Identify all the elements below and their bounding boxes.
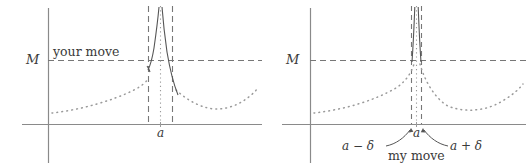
your-move-panel: M your move a: [0, 0, 265, 167]
label-a-minus-delta: a − δ: [342, 140, 374, 152]
right-plot-svg: [264, 0, 529, 167]
threshold-label-m: M: [286, 53, 299, 66]
curve-dotted-left-tail: [314, 64, 414, 113]
curve-solid-right-branch: [418, 7, 421, 62]
curve-solid-left-branch: [412, 7, 415, 62]
x-axis-label-a: a: [157, 127, 164, 139]
curve-dotted-right-tail: [176, 88, 258, 109]
figure-canvas: M your move a: [0, 0, 529, 167]
arrow-a-plus-delta: [424, 130, 448, 146]
label-a-plus-delta: a + δ: [450, 140, 482, 152]
annotation-my-move: my move: [388, 150, 445, 163]
x-axis-label-a: a: [413, 127, 420, 139]
curve-solid-right-branch: [162, 7, 178, 95]
left-plot-svg: [0, 0, 265, 167]
threshold-label-m: M: [26, 53, 39, 66]
my-move-panel: M a a − δ a + δ my move: [264, 0, 529, 167]
arrow-a-minus-delta: [386, 130, 410, 146]
curve-dotted-left-tail: [52, 78, 149, 113]
curve-dotted-right-tail: [420, 64, 523, 110]
annotation-your-move: your move: [53, 46, 119, 59]
